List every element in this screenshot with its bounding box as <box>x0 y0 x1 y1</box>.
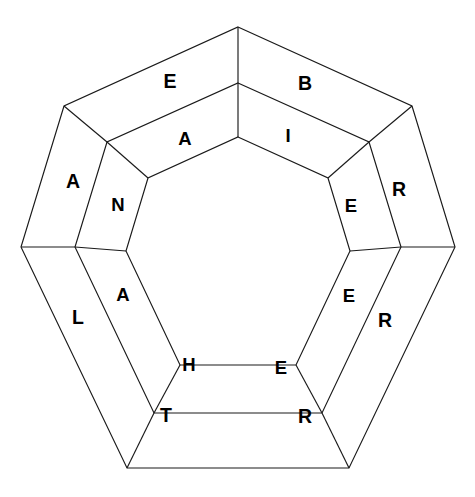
inner-cell-left-upper: N <box>111 194 124 215</box>
spoke-outer-6 <box>64 106 107 142</box>
spoke-inner-5 <box>75 247 126 251</box>
outer-cell-right-upper: R <box>392 178 406 200</box>
word-wheel-svg: B R R R T L A E I E E E H A N A <box>0 0 475 497</box>
spoke-outer-1 <box>369 106 412 142</box>
outer-cell-right-lower: R <box>378 309 392 331</box>
outer-cell-bottom-right: R <box>298 405 312 427</box>
inner-cell-top-left: A <box>178 128 191 149</box>
inner-cell-bottom-right: E <box>275 357 287 378</box>
inner-cell-right-upper: E <box>345 195 357 216</box>
spoke-inner-1 <box>328 142 369 178</box>
outer-cell-bottom-left: T <box>160 404 172 426</box>
inner-heptagon-core <box>126 137 350 365</box>
outer-cell-left-lower: L <box>72 306 84 328</box>
spoke-outer-4 <box>127 413 154 468</box>
inner-cell-left-lower: A <box>116 284 129 305</box>
outer-cell-top-right: B <box>298 72 312 94</box>
inner-cell-right-lower: E <box>343 285 355 306</box>
inner-cell-top-right: I <box>285 125 290 146</box>
spoke-outer-3 <box>322 413 349 468</box>
spoke-inner-6 <box>107 142 148 178</box>
outer-cell-left-upper: A <box>66 170 80 192</box>
outer-cell-top-left: E <box>163 70 176 92</box>
inner-cell-bottom-left: H <box>182 354 195 375</box>
word-wheel-diagram: B R R R T L A E I E E E H A N A <box>0 0 475 497</box>
spoke-inner-2 <box>350 247 401 251</box>
